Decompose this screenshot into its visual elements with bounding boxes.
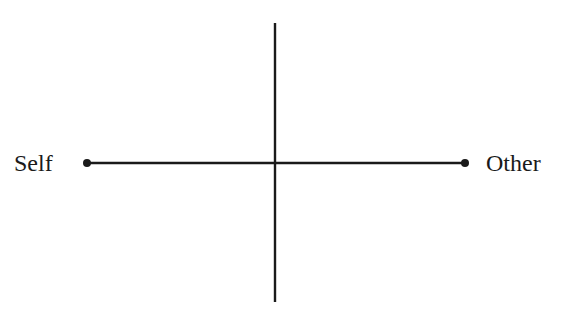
self-label: Self xyxy=(14,151,53,175)
right-endpoint-dot xyxy=(461,159,469,167)
other-label: Other xyxy=(486,151,541,175)
left-endpoint-dot xyxy=(83,159,91,167)
